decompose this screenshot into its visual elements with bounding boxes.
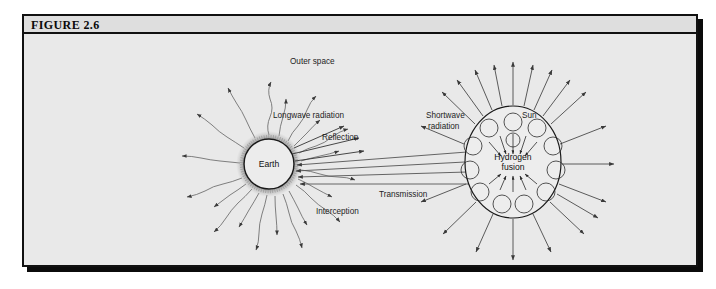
page-root: FIGURE 2.6 xyxy=(0,0,716,289)
label-longwave-radiation: Longwave radiation xyxy=(273,111,344,120)
reflection-arrows xyxy=(292,126,364,161)
sun-label-line1: Hydrogen xyxy=(494,152,531,162)
sun-label-line2: fusion xyxy=(502,162,525,172)
label-outer-space: Outer space xyxy=(290,57,335,66)
label-reflection: Reflection xyxy=(322,133,359,142)
label-shortwave-radiation-line2: radiation xyxy=(428,122,460,131)
label-interception: Interception xyxy=(316,207,359,216)
figure-illustration-area: Earth xyxy=(24,34,696,265)
label-shortwave-radiation-line1: Shortwave xyxy=(426,111,465,120)
label-sun: Sun xyxy=(522,111,537,120)
earth-label: Earth xyxy=(259,159,280,169)
figure-number-label: FIGURE 2.6 xyxy=(31,18,100,33)
radiation-diagram: Earth xyxy=(24,34,696,265)
figure-panel: FIGURE 2.6 xyxy=(22,14,698,267)
earth-body: Earth xyxy=(236,131,302,197)
figure-header-bar: FIGURE 2.6 xyxy=(24,16,696,34)
label-transmission: Transmission xyxy=(379,190,428,199)
